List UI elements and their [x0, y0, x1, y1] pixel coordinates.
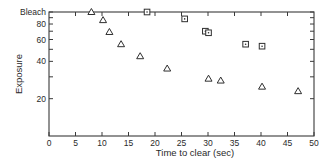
- triangle-marker: [118, 41, 125, 47]
- plot-border: [49, 12, 314, 136]
- triangle-marker: [106, 28, 113, 34]
- x-tick-label: 0: [47, 138, 52, 148]
- plot-frame: [49, 12, 314, 136]
- square-marker-dot: [184, 18, 186, 20]
- triangle-marker: [217, 77, 224, 83]
- x-tick-label: 50: [309, 138, 319, 148]
- triangle-marker: [205, 75, 212, 81]
- y-tick-label: 60: [37, 35, 47, 45]
- triangle-marker: [164, 65, 171, 71]
- y-tick-label: 20: [37, 94, 47, 104]
- y-tick-label: 40: [37, 56, 47, 66]
- x-tick-label: 15: [124, 138, 134, 148]
- x-tick-label: 45: [283, 138, 293, 148]
- x-tick-label: 5: [73, 138, 78, 148]
- triangle-marker: [295, 88, 302, 94]
- x-axis-ticks: 05101520253035404550: [47, 12, 319, 148]
- square-marker-dot: [261, 45, 263, 47]
- y-tick-label: Bleach: [20, 7, 46, 17]
- square-marker-dot: [208, 32, 210, 34]
- x-axis-label: Time to clear (sec): [156, 147, 234, 158]
- triangle-marker: [137, 53, 144, 59]
- exposure-vs-time-chart: 05101520253035404550 Bleach80604020 Time…: [0, 0, 336, 166]
- y-axis-ticks: Bleach80604020: [20, 7, 314, 104]
- square-marker-dot: [146, 11, 148, 13]
- data-points: [88, 9, 302, 94]
- y-tick-label: 80: [37, 19, 47, 29]
- triangle-marker: [100, 17, 107, 23]
- triangle-marker: [259, 83, 266, 89]
- square-marker-dot: [245, 43, 247, 45]
- y-axis-label: Exposure: [13, 54, 24, 94]
- x-tick-label: 40: [256, 138, 266, 148]
- chart-canvas: 05101520253035404550 Bleach80604020 Time…: [0, 0, 336, 166]
- x-tick-label: 10: [97, 138, 107, 148]
